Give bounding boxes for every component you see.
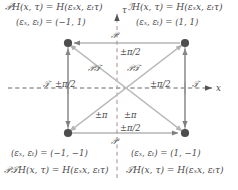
parity-pair-bottom-right: (εₓ, εₜ) = (1, −1) bbox=[131, 149, 201, 158]
operator-label-pt-left: 𝒫𝒯 bbox=[88, 64, 101, 73]
operator-label-t-left: 𝒯 bbox=[43, 80, 50, 89]
tau-axis-label: τ bbox=[122, 6, 127, 15]
node-top-right[interactable] bbox=[181, 39, 189, 47]
parity-pair-top-left: (εₓ, εₜ) = (−1, 1) bbox=[16, 18, 86, 27]
node-bottom-right[interactable] bbox=[181, 129, 189, 137]
parity-pair-top-right: (εₓ, εₜ) = (1, 1) bbox=[136, 18, 198, 27]
equation-bottom-left: 𝒫𝒯H(x, τ) = H(εₓx, εₜτ) bbox=[4, 166, 109, 175]
operator-label-t-right: 𝒯 bbox=[192, 80, 199, 89]
phase-label-top: ±π/2 bbox=[120, 48, 141, 56]
equation-top-left: 𝒫H(x, τ) = H(εₓx, εₜτ) bbox=[5, 3, 103, 12]
equation-bottom-right: 𝒯H(x, τ) = H(εₓx, εₜτ) bbox=[126, 166, 224, 175]
figure-root: 𝒫H(x, τ) = H(εₓx, εₜτ) ℐH(x, τ) = H(εₓx,… bbox=[0, 0, 238, 190]
operator-label-p-top: 𝒫 bbox=[111, 31, 117, 40]
operator-label-p-bottom: 𝒫 bbox=[111, 137, 117, 146]
parity-pair-bottom-left: (εₓ, εₜ) = (−1, −1) bbox=[11, 149, 88, 158]
phase-label-bottom: ±π/2 bbox=[120, 124, 141, 132]
x-axis-label: x bbox=[216, 84, 221, 93]
operator-label-pt-right: 𝒫𝒯 bbox=[127, 64, 140, 73]
phase-label-diagonal-right: ±π bbox=[124, 111, 137, 119]
phase-label-left: ±π/2 bbox=[55, 80, 76, 88]
node-bottom-left[interactable] bbox=[64, 129, 72, 137]
phase-label-diagonal-left: ±π bbox=[95, 111, 108, 119]
phase-label-right: ±π/2 bbox=[150, 80, 171, 88]
symmetry-diagram bbox=[0, 0, 238, 190]
equation-top-right: ℐH(x, τ) = H(εₓx, εₜτ) bbox=[128, 3, 223, 12]
node-top-left[interactable] bbox=[64, 39, 72, 47]
